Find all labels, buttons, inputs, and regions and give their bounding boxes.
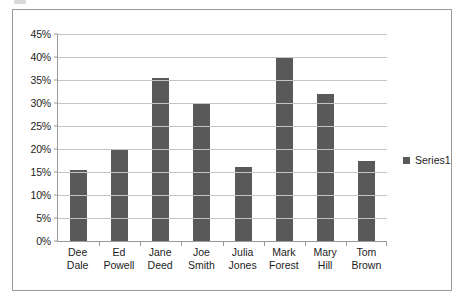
y-axis-tick-mark [54,80,58,81]
category-label-line: Smith [181,259,222,272]
chart-legend: Series1 [403,154,451,166]
category-label-line: Ed [98,246,139,259]
bar-slot [264,34,305,241]
bar[interactable] [70,170,87,241]
bar-slot [346,34,387,241]
legend-label-series1: Series1 [415,154,451,166]
category-label: JoeSmith [181,246,222,272]
category-label-line: Dee [57,246,98,259]
y-axis-tick-mark [54,171,58,172]
category-label: DeeDale [57,246,98,272]
gridline [58,172,387,173]
y-axis-tick-label: 25% [31,120,51,132]
category-label-line: Jones [222,259,263,272]
category-label-line: Mary [305,246,346,259]
gridline [58,218,387,219]
category-label: MarkForest [263,246,304,272]
y-axis-tick-mark [54,218,58,219]
scan-artifact [14,0,26,4]
category-label: TomBrown [346,246,387,272]
gridline [58,149,387,150]
y-axis-tick-mark [54,34,58,35]
y-axis-tick-mark [54,149,58,150]
category-label-line: Mark [263,246,304,259]
category-label: MaryHill [305,246,346,272]
category-label-line: Deed [140,259,181,272]
gridline [58,57,387,58]
y-axis-tick-mark [54,241,58,242]
bar-slot [58,34,99,241]
y-axis-tick-label: 30% [31,97,51,109]
bar-slot [305,34,346,241]
y-axis-tick-label: 45% [31,28,51,40]
y-axis-tick-mark [54,126,58,127]
category-label-line: Joe [181,246,222,259]
bars-layer [58,34,387,241]
bar-slot [99,34,140,241]
category-label-line: Jane [140,246,181,259]
chart-frame: 45%40%35%30%25%20%15%10%5%0% DeeDaleEdPo… [12,9,452,291]
category-label-line: Dale [57,259,98,272]
category-label: JaneDeed [140,246,181,272]
gridline [58,34,387,35]
y-axis-tick-label: 40% [31,51,51,63]
category-label: JuliaJones [222,246,263,272]
legend-swatch-series1 [403,157,410,164]
category-label-line: Forest [263,259,304,272]
gridline [58,103,387,104]
y-axis-tick-mark [54,57,58,58]
y-axis-tick-mark [54,195,58,196]
bar-slot [223,34,264,241]
y-axis-tick-mark [54,102,58,103]
y-axis-tick-label: 0% [36,235,51,247]
category-axis-labels: DeeDaleEdPowellJaneDeedJoeSmithJuliaJone… [57,246,387,272]
category-label-line: Hill [305,259,346,272]
plot-area: 45%40%35%30%25%20%15%10%5%0% [57,34,387,242]
category-label-line: Julia [222,246,263,259]
y-axis-tick-label: 20% [31,143,51,155]
y-axis-tick-label: 15% [31,166,51,178]
category-label-line: Brown [346,259,387,272]
gridline [58,80,387,81]
y-axis-tick-label: 5% [36,212,51,224]
bar-slot [140,34,181,241]
y-axis-tick-label: 10% [31,189,51,201]
gridline [58,126,387,127]
category-label-line: Tom [346,246,387,259]
category-label: EdPowell [98,246,139,272]
category-label-line: Powell [98,259,139,272]
bar[interactable] [235,167,252,241]
bar-slot [181,34,222,241]
y-axis-tick-label: 35% [31,74,51,86]
gridline [58,195,387,196]
